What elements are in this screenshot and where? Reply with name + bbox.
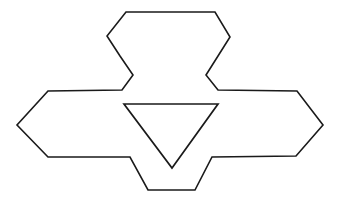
geometric-figure-svg bbox=[0, 0, 340, 212]
figure-canvas: Geometric line figure bbox=[0, 0, 340, 212]
outer-rosette-outline bbox=[17, 12, 323, 190]
inner-inverted-triangle bbox=[124, 104, 218, 168]
